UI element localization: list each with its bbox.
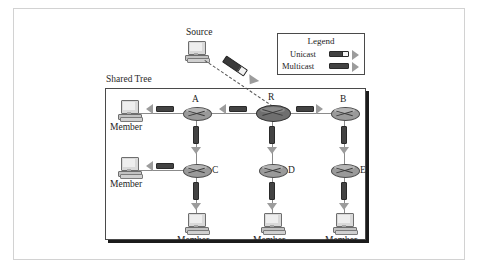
source-computer-icon	[184, 41, 210, 62]
router-label-c: C	[212, 165, 218, 175]
multicast-packet-e-to-member	[341, 182, 347, 200]
router-r[interactable]	[256, 105, 289, 120]
member-label-5: Member	[325, 235, 357, 245]
shared-tree-box-shadow-right	[366, 91, 369, 243]
legend-box: Legend Unicast Multicast	[277, 33, 365, 75]
figure-canvas: Source Legend Unicast Multicast Shared T…	[0, 0, 479, 275]
multicast-arrow-b-to-e	[339, 147, 349, 154]
shared-tree-label: Shared Tree	[106, 74, 152, 84]
router-e[interactable]	[331, 164, 358, 176]
multicast-arrow-a-to-c	[191, 147, 201, 154]
router-label-e: E	[360, 165, 366, 175]
legend-multicast-arrow-icon	[352, 62, 359, 72]
member-label-3: Member	[177, 235, 209, 245]
legend-label-multicast: Multicast	[282, 61, 314, 71]
legend-multicast-bar-icon	[329, 63, 349, 69]
router-a[interactable]	[183, 107, 210, 119]
source-label: Source	[186, 27, 212, 37]
multicast-packet-r-to-a	[229, 106, 247, 112]
legend-title: Legend	[278, 36, 364, 46]
multicast-packet-c-to-member-down	[193, 182, 199, 200]
member-label-2: Member	[110, 179, 142, 189]
router-label-r: R	[268, 92, 274, 102]
member-computer-icon-1	[117, 100, 143, 121]
router-b[interactable]	[331, 107, 358, 119]
multicast-packet-c-to-member	[156, 163, 174, 169]
multicast-arrow-r-to-d	[267, 147, 277, 154]
router-d[interactable]	[259, 164, 286, 176]
multicast-arrow-r-to-b	[316, 104, 323, 114]
router-label-a: A	[192, 94, 199, 104]
member-label-1: Member	[110, 122, 142, 132]
legend-unicast-arrow-icon	[352, 50, 359, 60]
multicast-packet-r-to-d	[269, 126, 275, 144]
multicast-packet-a-to-member	[156, 106, 174, 112]
multicast-arrow-a-to-member	[146, 104, 153, 114]
multicast-packet-b-to-e	[341, 126, 347, 144]
legend-row-unicast: Unicast	[281, 49, 365, 60]
multicast-arrow-e-to-member	[339, 203, 349, 210]
member-computer-icon-2	[117, 157, 143, 178]
router-label-d: D	[288, 165, 295, 175]
top-row-link-line	[130, 113, 345, 114]
multicast-arrow-c-to-member	[146, 161, 153, 171]
multicast-arrow-d-to-member	[267, 203, 277, 210]
multicast-packet-d-to-member	[269, 182, 275, 200]
router-label-b: B	[340, 94, 346, 104]
multicast-packet-a-to-c	[193, 126, 199, 144]
multicast-arrow-c-to-member-down	[191, 203, 201, 210]
legend-label-unicast: Unicast	[290, 49, 316, 59]
member-computer-icon-5	[332, 213, 358, 234]
member-computer-icon-4	[260, 213, 286, 234]
router-c[interactable]	[183, 164, 210, 176]
member-label-4: Member	[253, 235, 285, 245]
legend-row-multicast: Multicast	[281, 61, 365, 72]
member-computer-icon-3	[184, 213, 210, 234]
legend-unicast-bar-icon	[329, 51, 349, 57]
multicast-arrow-r-to-a	[219, 104, 226, 114]
multicast-packet-r-to-b	[296, 106, 314, 112]
